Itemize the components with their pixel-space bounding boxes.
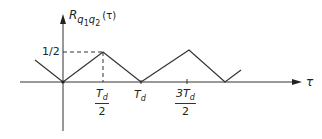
origin-point — [61, 80, 64, 83]
y-tick-half: 1/2 — [42, 46, 60, 57]
x-axis-arrow-icon — [292, 79, 302, 85]
x-tick-3td-half: 3Td 2 — [175, 88, 196, 117]
y-axis-label: Rq1q2(τ) — [69, 9, 116, 24]
x-axis-label: τ — [306, 76, 313, 88]
td-half-num-sub: d — [103, 93, 108, 102]
y-axis-arrow-icon — [60, 14, 66, 24]
td-t: T — [134, 88, 141, 101]
td-sub: d — [141, 94, 146, 103]
y-label-sub2-index: 2 — [95, 19, 100, 28]
3td-half-num: 3Td — [175, 88, 196, 104]
3td-half-num-t: 3T — [176, 87, 190, 100]
x-tick-td: Td — [134, 89, 146, 103]
x-tick-td-half: Td 2 — [95, 88, 109, 117]
3td-half-den: 2 — [182, 104, 189, 117]
diagram-canvas — [0, 0, 322, 139]
y-label-arg: (τ) — [102, 10, 116, 21]
td-half-den: 2 — [98, 104, 105, 117]
td-half-num: Td — [95, 88, 109, 104]
3td-half-num-sub: d — [190, 93, 195, 102]
triangular-waveform — [35, 50, 241, 82]
td-half-num-t: T — [96, 87, 103, 100]
